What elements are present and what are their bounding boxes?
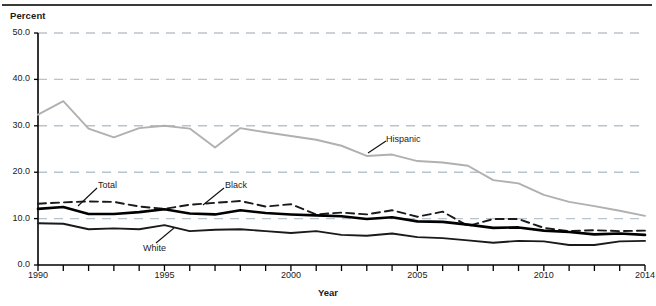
x-tick-label: 1990 <box>18 270 58 280</box>
x-tick-label: 2000 <box>271 270 311 280</box>
series-label-total: Total <box>98 180 117 190</box>
y-tick-label: 10.0 <box>0 213 30 223</box>
x-tick-label: 2005 <box>397 270 437 280</box>
x-axis-title: Year <box>0 287 656 298</box>
data-series-group <box>38 101 645 245</box>
x-tick-label: 2010 <box>524 270 564 280</box>
series-line-total <box>38 207 645 235</box>
series-label-hispanic: Hispanic <box>386 134 421 144</box>
series-line-hispanic <box>38 101 645 216</box>
x-tick-label: 1995 <box>144 270 184 280</box>
y-tick-label: 0.0 <box>0 259 30 269</box>
series-label-black: Black <box>225 180 247 190</box>
gridlines-group <box>38 33 645 219</box>
percent-dropout-rate-line-chart: Percent 0.010.020.030.040.050.0 19901995… <box>0 0 656 306</box>
series-line-white <box>38 223 645 245</box>
plot-area <box>0 0 656 306</box>
x-tick-label: 2014 <box>625 270 656 280</box>
series-label-white: White <box>143 243 166 253</box>
y-tick-label: 50.0 <box>0 27 30 37</box>
annotation-leader-lines <box>78 141 386 243</box>
y-tick-label: 40.0 <box>0 73 30 83</box>
y-tick-label: 30.0 <box>0 120 30 130</box>
y-tick-label: 20.0 <box>0 166 30 176</box>
